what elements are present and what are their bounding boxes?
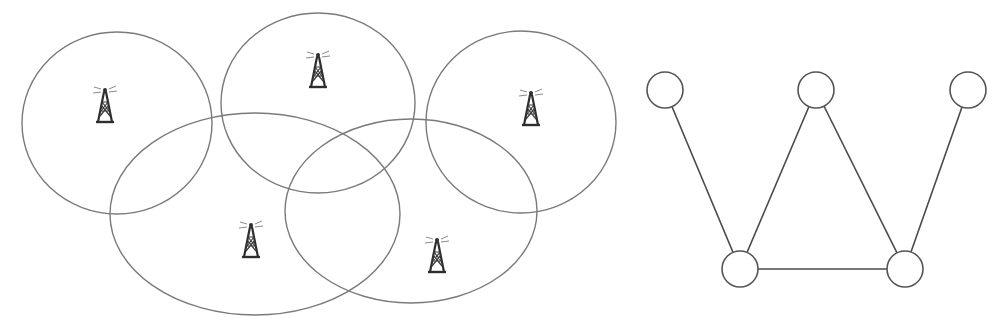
graph-edge-n3-n5 (905, 90, 968, 269)
graph-edges (665, 90, 968, 269)
graph-node-n1 (647, 72, 683, 108)
radio-tower-icon (93, 86, 117, 122)
radio-tower-icon (519, 89, 543, 125)
graph-edge-n2-n4 (740, 90, 816, 269)
graph-node-n2 (798, 72, 834, 108)
towers (93, 51, 543, 272)
graph-node-n5 (887, 251, 923, 287)
graph-nodes (647, 72, 986, 287)
graph-node-n3 (950, 72, 986, 108)
radio-tower-icon (239, 221, 263, 257)
diagram-canvas (0, 0, 1005, 330)
coverage-area-area-4 (110, 113, 400, 315)
graph-edge-n1-n4 (665, 90, 740, 269)
coverage-area-area-1 (22, 32, 212, 214)
coverage-area-area-3 (426, 31, 616, 213)
radio-tower-icon (306, 51, 330, 87)
graph-node-n4 (722, 251, 758, 287)
graph-edge-n2-n5 (816, 90, 905, 269)
radio-tower-icon (425, 236, 449, 272)
coverage-area-area-2 (221, 13, 415, 193)
